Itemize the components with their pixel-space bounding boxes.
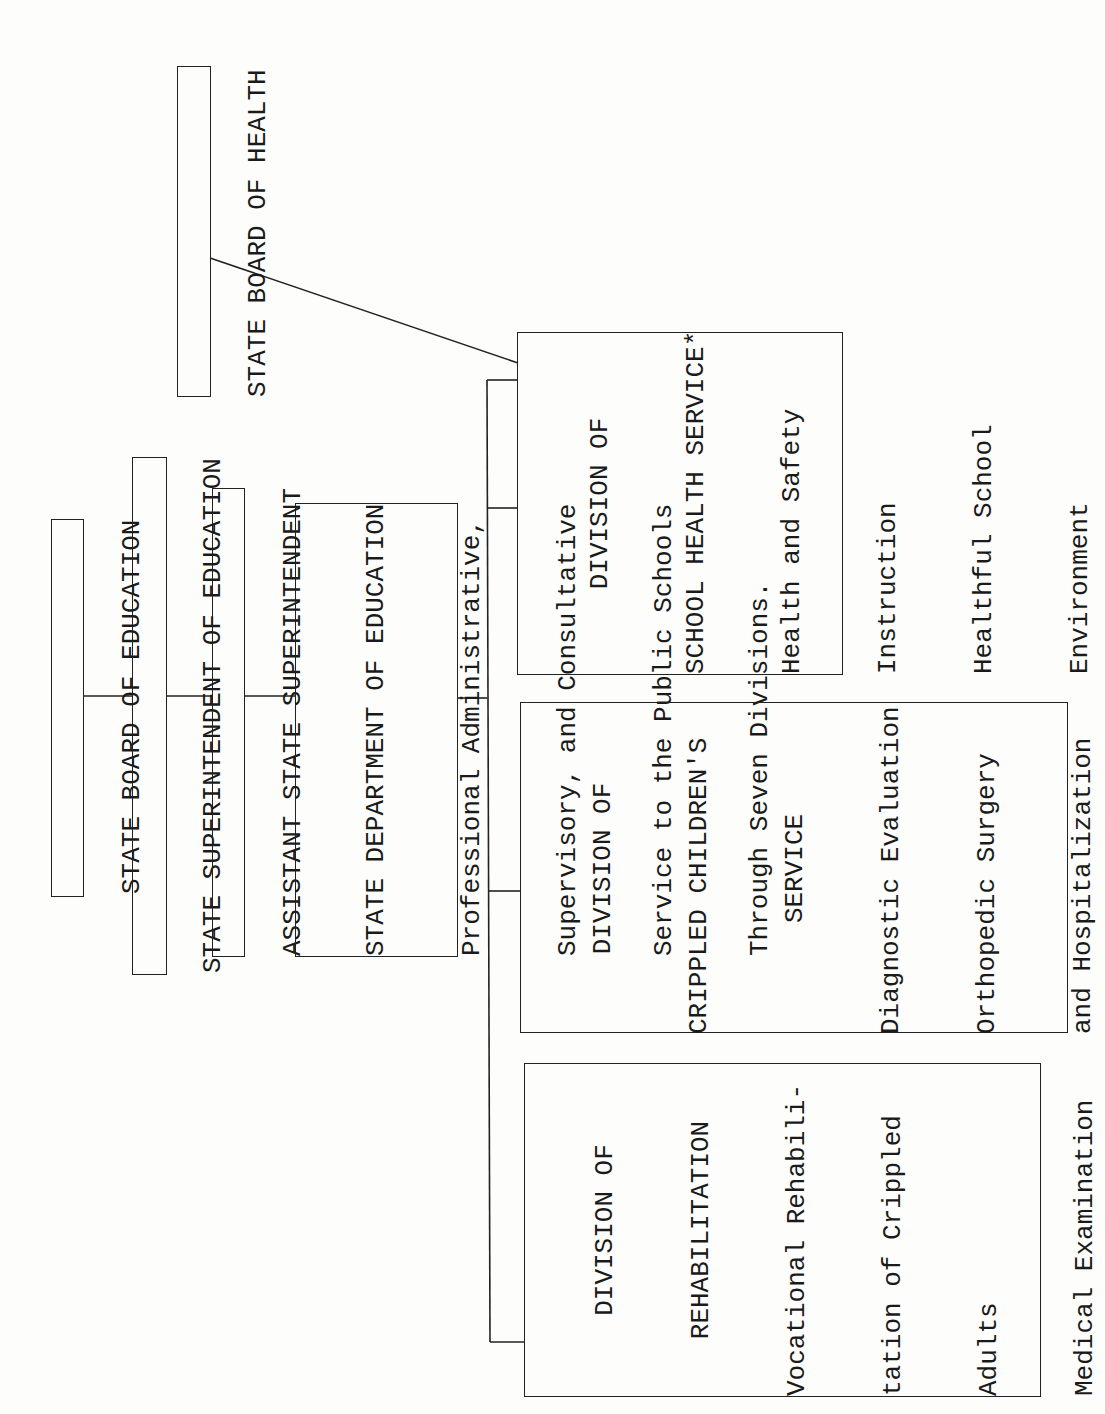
assistant-superintendent-box: ASSISTANT STATE SUPERINTENDENT bbox=[212, 488, 245, 957]
school-health-service-item: Environment bbox=[1064, 333, 1096, 674]
state-board-of-education-box: STATE BOARD OF EDUCATION bbox=[51, 519, 84, 897]
state-department-title: STATE DEPARTMENT OF EDUCATION bbox=[360, 504, 392, 956]
crippled-service-item: Orthopedic Surgery bbox=[971, 703, 1003, 1034]
crippled-children-division-box: DIVISION OF CRIPPLED CHILDREN'S SERVICE … bbox=[520, 702, 1068, 1033]
crippled-title-line: CRIPPLED CHILDREN'S bbox=[683, 703, 715, 1034]
state-superintendent-box: STATE SUPERINTENDENT OF EDUCATION bbox=[132, 457, 167, 975]
rehab-title-line: DIVISION OF bbox=[589, 1064, 621, 1396]
rehab-service-item: Vocational Rehabili- bbox=[781, 1064, 813, 1396]
rehab-service-item: Medical Examination bbox=[1069, 1064, 1101, 1396]
crippled-title-line: DIVISION OF bbox=[587, 703, 619, 1034]
school-health-title-line: SCHOOL HEALTH SERVICE* bbox=[680, 333, 712, 674]
crippled-title-line: SERVICE bbox=[779, 703, 811, 1034]
state-board-of-health-box: STATE BOARD OF HEALTH bbox=[177, 66, 211, 397]
state-board-of-health-label: STATE BOARD OF HEALTH bbox=[242, 67, 274, 397]
rehabilitation-division-box: DIVISION OF REHABILITATION Vocational Re… bbox=[524, 1063, 1041, 1397]
state-department-desc-line: Professional Administrative, bbox=[456, 504, 488, 956]
school-health-division-box: DIVISION OF SCHOOL HEALTH SERVICE* Healt… bbox=[517, 332, 843, 675]
school-health-title-line: DIVISION OF bbox=[584, 333, 616, 674]
crippled-service-item: and Hospitalization bbox=[1067, 703, 1099, 1034]
state-department-box: STATE DEPARTMENT OF EDUCATION Profession… bbox=[295, 503, 458, 957]
rehab-service-item: Adults bbox=[973, 1064, 1005, 1396]
rehab-title-line: REHABILITATION bbox=[685, 1064, 717, 1396]
school-health-service-item: Healthful School bbox=[968, 333, 1000, 674]
crippled-service-item: Diagnostic Evaluation bbox=[875, 703, 907, 1034]
school-health-service-item: Instruction bbox=[872, 333, 904, 674]
rehab-service-item: tation of Crippled bbox=[877, 1064, 909, 1396]
org-chart: STATE BOARD OF EDUCATION STATE SUPERINTE… bbox=[0, 0, 1105, 1414]
school-health-service-item: Health and Safety bbox=[776, 333, 808, 674]
